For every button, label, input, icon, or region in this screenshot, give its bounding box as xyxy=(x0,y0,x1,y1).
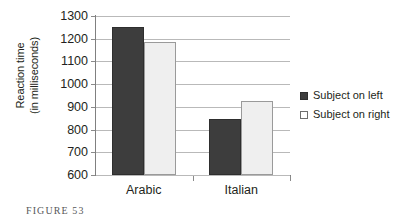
y-axis-title-line-1: Reaction time xyxy=(14,2,28,150)
legend-label-subject-on-left: Subject on left xyxy=(313,86,383,105)
gridline-1300 xyxy=(96,16,290,17)
y-tick-600 xyxy=(91,175,95,176)
legend-item-subject-on-left: Subject on left xyxy=(300,86,389,105)
y-tick-label-1200: 1200 xyxy=(60,33,88,45)
figure-container: Reaction time (in milliseconds) 13001200… xyxy=(0,0,398,224)
legend-label-subject-on-right: Subject on right xyxy=(313,105,389,124)
y-tick-label-1300: 1300 xyxy=(60,10,88,22)
y-tick-800 xyxy=(91,130,95,131)
plot-area: 1300120011001000900800700600 ArabicItali… xyxy=(95,16,290,175)
x-tick-divider xyxy=(193,176,194,181)
y-tick-label-600: 600 xyxy=(67,169,88,181)
bar-arabic-subject-on-right xyxy=(144,42,176,175)
legend: Subject on left Subject on right xyxy=(300,86,389,124)
y-tick-1100 xyxy=(91,61,95,62)
bar-italian-subject-on-right xyxy=(241,101,273,175)
category-label-arabic: Arabic xyxy=(94,183,194,197)
figure-caption: FIGURE 53 xyxy=(26,205,85,216)
x-tick-end xyxy=(290,176,291,181)
bar-italian-subject-on-left xyxy=(209,119,241,175)
y-tick-label-1000: 1000 xyxy=(60,78,88,90)
y-tick-700 xyxy=(91,152,95,153)
y-tick-label-1100: 1100 xyxy=(61,55,88,67)
y-tick-label-800: 800 xyxy=(67,124,88,136)
y-tick-900 xyxy=(91,107,95,108)
y-axis-title-line-2: (in milliseconds) xyxy=(27,2,41,150)
y-tick-label-900: 900 xyxy=(67,101,88,113)
y-tick-1200 xyxy=(91,39,95,40)
y-tick-1000 xyxy=(91,84,95,85)
y-tick-1300 xyxy=(91,16,95,17)
legend-swatch-subject-on-right-icon xyxy=(300,111,308,119)
legend-swatch-subject-on-left-icon xyxy=(300,92,308,100)
legend-item-subject-on-right: Subject on right xyxy=(300,105,389,124)
bar-arabic-subject-on-left xyxy=(112,27,144,175)
y-tick-label-700: 700 xyxy=(67,146,88,158)
y-axis-title: Reaction time (in milliseconds) xyxy=(14,2,41,150)
category-label-italian: Italian xyxy=(191,183,291,197)
